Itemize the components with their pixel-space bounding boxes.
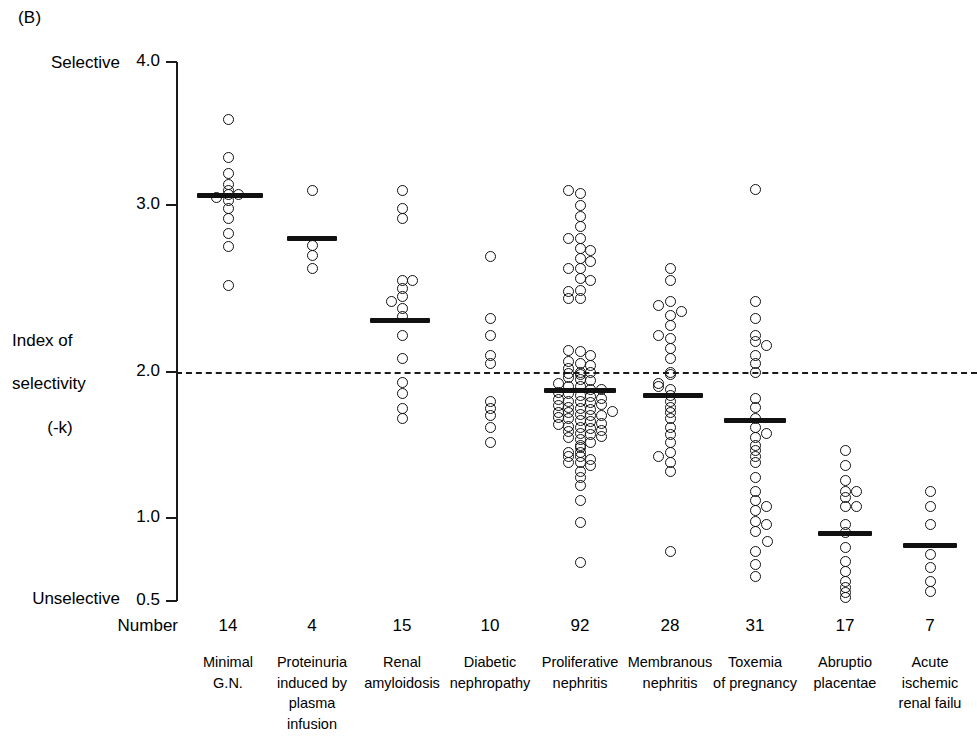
data-point — [840, 475, 851, 486]
column-count-5: 92 — [535, 616, 625, 636]
data-point — [485, 422, 496, 433]
data-point — [925, 586, 936, 597]
column-caption-4: Diabetic nephropathy — [444, 652, 536, 693]
data-point — [307, 250, 318, 261]
data-point — [750, 402, 761, 413]
data-point — [397, 353, 408, 364]
data-point — [750, 336, 761, 347]
data-point — [575, 188, 586, 199]
column-count-2: 4 — [267, 616, 357, 636]
data-point — [665, 263, 676, 274]
y-tick-0-5 — [166, 600, 177, 602]
data-point — [607, 406, 618, 417]
column-caption-3: Renal amyloidosis — [356, 652, 448, 693]
column-caption-6: Membranous nephritis — [624, 652, 716, 693]
data-point — [925, 562, 936, 573]
data-point — [223, 241, 234, 252]
data-point — [750, 184, 761, 195]
y-tick-3-0 — [166, 204, 177, 206]
data-point — [575, 346, 586, 357]
y-tick-1-0 — [166, 517, 177, 519]
data-point — [563, 233, 574, 244]
data-point — [553, 419, 564, 430]
data-point — [750, 546, 761, 557]
data-point — [665, 275, 676, 286]
data-point — [307, 263, 318, 274]
data-point — [665, 353, 676, 364]
data-point — [750, 457, 761, 468]
data-point — [575, 200, 586, 211]
data-point — [851, 501, 862, 512]
data-point — [397, 377, 408, 388]
number-row-label: Number — [28, 616, 178, 636]
data-point — [665, 369, 676, 380]
data-point — [397, 291, 408, 302]
median-bar — [818, 531, 872, 536]
data-point — [840, 542, 851, 553]
column-count-6: 28 — [625, 616, 715, 636]
y-tick-label-2-0: 2.0 — [112, 361, 160, 381]
median-bar — [544, 388, 616, 393]
y-tick-label-3-0: 3.0 — [112, 194, 160, 214]
data-point — [925, 486, 936, 497]
data-point — [750, 296, 761, 307]
median-bar — [287, 236, 337, 241]
data-point — [665, 546, 676, 557]
data-point — [665, 320, 676, 331]
median-bar — [643, 393, 703, 398]
data-point — [575, 273, 586, 284]
data-point — [653, 300, 664, 311]
data-point — [407, 275, 418, 286]
median-bar — [197, 193, 263, 198]
data-point — [223, 114, 234, 125]
data-point — [485, 330, 496, 341]
data-point — [925, 519, 936, 530]
data-point — [585, 275, 596, 286]
data-point — [397, 185, 408, 196]
figure-panel-b: (B) Selective Index of selectivity (-k) … — [0, 0, 977, 736]
data-point — [563, 432, 574, 443]
column-caption-7: Toxemia of pregnancy — [709, 652, 801, 693]
data-point — [840, 445, 851, 456]
data-point — [596, 431, 607, 442]
median-bar — [724, 418, 786, 423]
data-point — [307, 240, 318, 251]
data-point — [397, 213, 408, 224]
data-point — [761, 428, 772, 439]
data-point — [485, 410, 496, 421]
data-point — [761, 519, 772, 530]
data-point — [750, 472, 761, 483]
column-count-3: 15 — [357, 616, 447, 636]
data-point — [563, 263, 574, 274]
median-bar — [370, 318, 430, 323]
data-point — [653, 330, 664, 341]
data-point — [563, 457, 574, 468]
data-point — [761, 501, 772, 512]
data-point — [750, 505, 761, 516]
data-point — [762, 536, 773, 547]
data-point — [397, 330, 408, 341]
column-caption-2: Proteinuria induced by plasma infusion — [266, 652, 358, 734]
data-point — [925, 501, 936, 512]
data-point — [840, 460, 851, 471]
data-point — [575, 221, 586, 232]
data-point — [307, 185, 318, 196]
data-point — [485, 358, 496, 369]
data-point — [563, 185, 574, 196]
data-point — [223, 168, 234, 179]
data-point — [585, 437, 596, 448]
column-caption-1: Minimal G.N. — [182, 652, 274, 693]
data-point — [585, 245, 596, 256]
column-count-1: 14 — [183, 616, 273, 636]
data-point — [485, 251, 496, 262]
data-point — [840, 566, 851, 577]
data-point — [397, 413, 408, 424]
data-point — [750, 367, 761, 378]
data-point — [575, 480, 586, 491]
column-count-7: 31 — [710, 616, 800, 636]
data-point — [585, 460, 596, 471]
y-tick-4-0 — [166, 61, 177, 63]
data-point — [485, 313, 496, 324]
column-count-9: 7 — [885, 616, 975, 636]
data-point — [851, 486, 862, 497]
